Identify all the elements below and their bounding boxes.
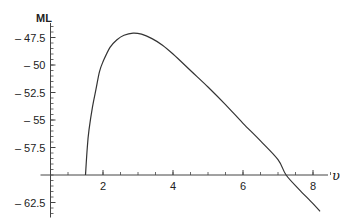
x-tick-label: 4: [170, 180, 176, 192]
series-line-ml: [86, 33, 321, 211]
x-axis: 2468: [41, 170, 331, 192]
y-tick-label: – 50: [24, 59, 45, 71]
y-axis: – 47.5– 50– 52.5– 55– 57.5– 62.5: [15, 23, 56, 218]
y-axis-title: ML: [36, 12, 52, 24]
y-tick-label: – 62.5: [15, 197, 46, 209]
y-tick-label: – 52.5: [15, 87, 46, 99]
x-tick-label: 8: [310, 180, 316, 192]
x-tick-label: 6: [240, 180, 246, 192]
x-axis-title: υ: [332, 168, 340, 183]
y-tick-label: – 47.5: [15, 32, 46, 44]
y-tick-label: – 55: [24, 114, 45, 126]
plot-area: [86, 33, 321, 211]
x-tick-label: 2: [100, 180, 106, 192]
line-chart: – 47.5– 50– 52.5– 55– 57.5– 62.5 2468 ML…: [0, 0, 355, 220]
y-tick-label: – 57.5: [15, 142, 46, 154]
